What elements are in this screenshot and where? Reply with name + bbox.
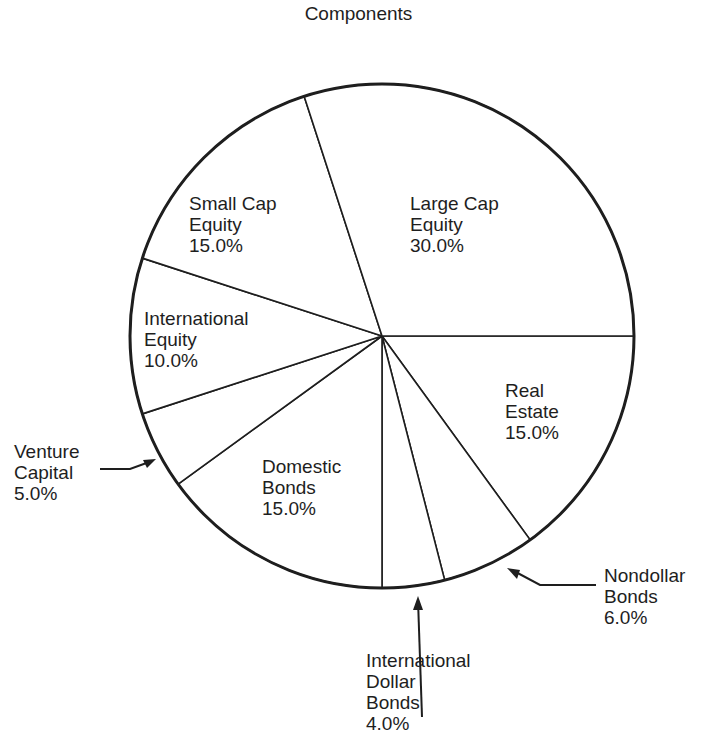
label-large-cap-equity: Large Cap Equity 30.0% [410, 193, 499, 256]
nondollar-leader [512, 570, 596, 585]
label-nondollar-bonds: Nondollar Bonds 6.0% [604, 565, 685, 628]
nondollar-arrowhead-icon [507, 568, 520, 579]
label-domestic-bonds: Domestic Bonds 15.0% [262, 456, 341, 519]
label-venture-capital: Venture Capital 5.0% [14, 441, 80, 504]
pie-chart [0, 0, 717, 749]
label-international-dollar-bonds: International Dollar Bonds 4.0% [366, 650, 471, 734]
label-real-estate: Real Estate 15.0% [505, 380, 559, 443]
venture-arrowhead-icon [143, 459, 156, 468]
intl-dollar-arrowhead-icon [413, 596, 423, 610]
label-international-equity: International Equity 10.0% [144, 308, 249, 371]
label-small-cap-equity: Small Cap Equity 15.0% [189, 193, 277, 256]
